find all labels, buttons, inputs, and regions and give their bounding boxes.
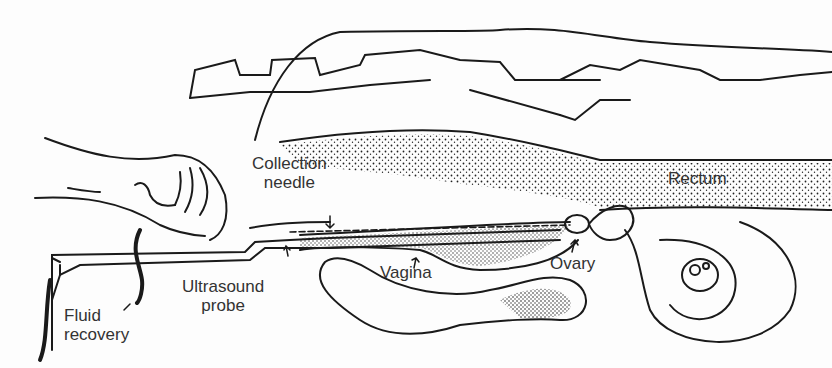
label-ultrasound-probe: Ultrasound probe — [182, 277, 264, 315]
ovary-shape — [565, 215, 589, 233]
body-outline — [255, 29, 832, 140]
label-rectum: Rectum — [668, 169, 727, 188]
label-line-1: Ultrasound — [182, 277, 264, 296]
label-collection-needle: Collection needle — [252, 154, 327, 192]
label-ovary: Ovary — [550, 254, 595, 273]
rectum-fill — [280, 134, 832, 207]
label-vagina: Vagina — [380, 263, 432, 282]
uterine-horn — [625, 222, 796, 342]
label-line-2: needle — [252, 173, 327, 192]
label-line-2: probe — [182, 296, 264, 315]
label-line-1: Fluid — [64, 306, 129, 325]
label-line-1: Collection — [252, 154, 327, 173]
diagram-canvas: Collection needle Ultrasound probe Fluid… — [0, 0, 832, 368]
label-fluid-recovery: Fluid recovery — [64, 306, 129, 344]
fluid-recovery-tube — [136, 230, 143, 303]
label-line-2: recovery — [64, 325, 129, 344]
spine — [190, 50, 600, 98]
